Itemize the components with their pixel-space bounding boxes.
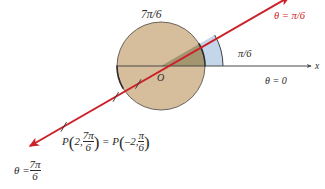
point2-name: P [112, 135, 119, 147]
theta-equals: θ = [14, 164, 30, 176]
point1-close-paren: ) [94, 134, 100, 151]
point1-angle-denominator: 6 [83, 141, 94, 153]
label-point-equation: P(2,7π6) = P(–2,π6) [62, 131, 150, 154]
point2-open-paren: ( [119, 134, 125, 151]
label-ray-angle: θ = π/6 [274, 11, 305, 22]
label-axis-angle: θ = 0 [265, 76, 287, 86]
label-x-axis: x [315, 62, 319, 72]
label-opposite-ray-angle: θ =7π6 [14, 160, 41, 183]
point1-angle-numerator: 7π [83, 130, 94, 141]
label-origin: O [157, 73, 164, 83]
point2-close-paren: ) [144, 134, 150, 151]
label-top-angle: 7π/6 [141, 9, 161, 21]
point1-angle-fraction: 7π6 [83, 130, 94, 153]
opposite-ray-fraction: 7π6 [30, 159, 41, 182]
opposite-ray-denominator: 6 [30, 170, 41, 182]
opposite-ray-numerator: 7π [30, 159, 41, 170]
point1-open-paren: ( [69, 134, 75, 151]
point1-name: P [62, 135, 69, 147]
point1-radius: 2, [74, 135, 82, 147]
equals-sign: = [102, 135, 109, 147]
point2-radius: –2, [125, 135, 139, 147]
polar-coordinate-diagram [0, 0, 325, 189]
label-sector-angle: π/6 [238, 49, 251, 60]
